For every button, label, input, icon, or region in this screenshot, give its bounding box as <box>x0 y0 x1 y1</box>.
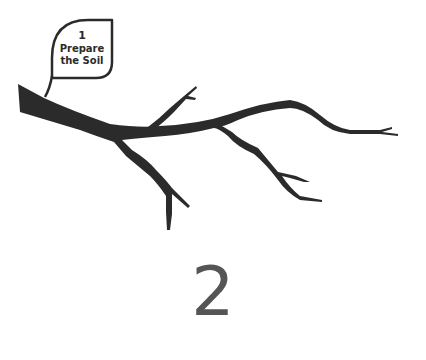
upper-twig <box>148 86 197 128</box>
leaf-title-line-2: the Soil <box>60 55 103 67</box>
step-number: 2 <box>0 258 426 326</box>
leaf-stem <box>45 76 52 97</box>
main-branch <box>18 84 398 230</box>
leaf-title-line-1: Prepare <box>60 43 105 55</box>
leaf-step-number: 1 <box>78 30 86 43</box>
leaf-label: 1 Prepare the Soil <box>52 22 112 74</box>
